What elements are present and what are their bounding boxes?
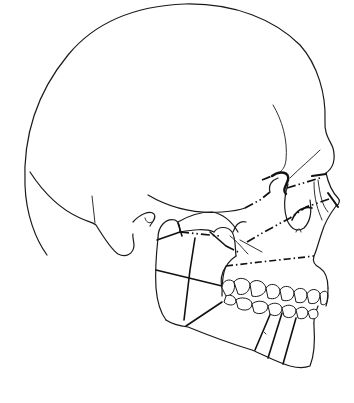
frontal-process-line [290,150,320,178]
symphyseal-fracture [283,318,296,364]
maxilla-profile [313,206,336,288]
ramus-posterior [156,238,166,320]
temporal-line [273,105,286,172]
zygomatic-root [233,221,246,232]
coronoid-fracture [210,232,226,246]
skull-diagram [0,0,354,403]
body-fracture [255,310,272,350]
le-fort-i-line [226,256,314,266]
sigmoid-notch [180,230,214,232]
zygomatic-arch-fracture [245,192,270,208]
coronoid-dash [226,246,238,252]
maxillary-tuberosity-line [230,236,248,254]
le-fort-ii-crossbar [328,193,338,207]
supramastoid-crest [92,196,95,223]
nasal-inner-line [318,180,328,212]
le-fort-ii-line [247,198,332,242]
condylar-short-line [178,223,182,236]
mastoid-process [133,212,155,226]
mastoid-notch [145,218,152,223]
mandible-lower-border [166,306,318,368]
le-fort-iii-line [287,178,320,188]
condylar-fracture [157,232,180,240]
zygoma-line [240,240,262,252]
mental-foramen [264,332,266,334]
skull-base-posterior [30,172,134,256]
parasymphyseal-fracture [268,313,282,358]
zygomatic-arch-lower [269,178,278,192]
frontonasal-bar [312,174,326,176]
angle-fracture [186,302,222,326]
infraorbital-curve [292,208,312,221]
skull-drawing [0,0,354,403]
frontozygomatic-dots [262,176,272,180]
zygomatic-arch [148,195,245,212]
cranium-outline [25,4,334,255]
